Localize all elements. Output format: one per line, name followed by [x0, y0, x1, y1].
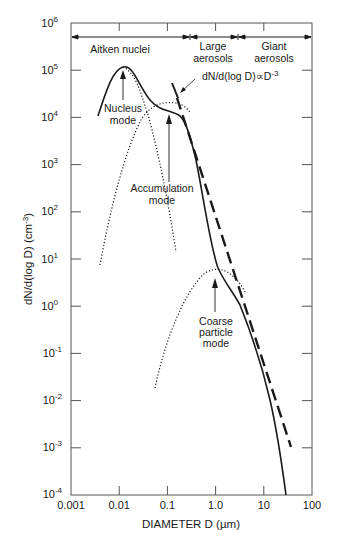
svg-text:105: 105 [41, 62, 58, 76]
svg-text:103: 103 [41, 156, 58, 170]
svg-text:0.001: 0.001 [57, 499, 85, 511]
range-label-large-1: Large [200, 40, 227, 52]
svg-text:mode: mode [110, 114, 136, 126]
range-label-giant-1: Giant [261, 40, 286, 52]
range-label-giant-2: aerosols [254, 52, 294, 64]
svg-text:dN/d(log D)∝D-3: dN/d(log D)∝D-3 [202, 69, 279, 82]
svg-text:mode: mode [149, 194, 175, 206]
svg-text:Accumulation: Accumulation [130, 182, 193, 194]
svg-text:0.1: 0.1 [160, 499, 175, 511]
x-axis-title: DIAMETER D (µm) [142, 518, 240, 530]
y-axis-title: dN/d(log D) (cm-3) [21, 213, 34, 305]
svg-text:100: 100 [303, 499, 321, 511]
svg-text:100: 100 [41, 298, 58, 312]
svg-text:101: 101 [41, 251, 58, 265]
power-law-start-mark [172, 83, 178, 98]
svg-text:10-3: 10-3 [43, 439, 63, 453]
plot-frame [71, 23, 312, 495]
power-law-line [177, 98, 291, 447]
power-law-annotation: dN/d(log D)∝D-3 [180, 69, 279, 93]
y-ticks [71, 70, 312, 448]
svg-text:10-2: 10-2 [43, 392, 63, 406]
range-label-large-2: aerosols [193, 52, 233, 64]
svg-text:10: 10 [258, 499, 270, 511]
y-tick-labels: 106 105 104 103 102 101 100 10-1 10-2 10… [41, 15, 62, 500]
x-ticks [119, 23, 264, 495]
svg-text:1.0: 1.0 [208, 499, 223, 511]
accumulation-mode-annotation: Accumulation mode [130, 114, 193, 206]
svg-text:102: 102 [41, 203, 58, 217]
chart-svg: 106 105 104 103 102 101 100 10-1 10-2 10… [0, 0, 340, 543]
nucleus-mode-curve [123, 67, 176, 252]
svg-text:0.01: 0.01 [108, 499, 129, 511]
svg-text:104: 104 [41, 109, 58, 123]
svg-text:Nucleus: Nucleus [104, 102, 142, 114]
svg-text:mode: mode [203, 337, 229, 349]
svg-text:106: 106 [41, 15, 58, 29]
svg-text:10-1: 10-1 [43, 345, 63, 359]
coarse-mode-annotation: Coarse particle mode [199, 278, 233, 349]
range-label-aitken: Aitken nuclei [90, 43, 150, 55]
total-distribution-curve [98, 67, 286, 495]
svg-text:10-4: 10-4 [43, 486, 63, 500]
x-tick-labels: 0.001 0.01 0.1 1.0 10 100 [57, 499, 321, 511]
